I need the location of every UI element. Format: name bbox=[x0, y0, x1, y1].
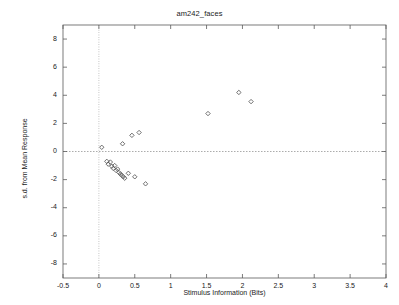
figure-container: am242_faces s.d. from Mean Response Stim… bbox=[0, 0, 399, 305]
x-tick-label: 0.5 bbox=[115, 282, 155, 289]
data-point bbox=[133, 175, 137, 179]
data-point bbox=[206, 111, 210, 115]
y-tick-label: 4 bbox=[27, 91, 57, 98]
data-point bbox=[137, 130, 141, 134]
y-tick-label: 2 bbox=[27, 119, 57, 126]
y-tick-label: 6 bbox=[27, 63, 57, 70]
data-point bbox=[143, 182, 147, 186]
scatter-plot bbox=[0, 0, 399, 305]
data-point bbox=[237, 90, 241, 94]
y-tick-label: -6 bbox=[27, 231, 57, 238]
x-tick-label: -0.5 bbox=[43, 282, 83, 289]
data-point bbox=[130, 133, 134, 137]
x-tick-label: 3.5 bbox=[330, 282, 370, 289]
y-tick-label: -4 bbox=[27, 203, 57, 210]
x-tick-label: 0 bbox=[79, 282, 119, 289]
x-tick-label: 2 bbox=[222, 282, 262, 289]
reference-lines bbox=[63, 25, 386, 278]
x-tick-label: 1.5 bbox=[187, 282, 227, 289]
data-point bbox=[126, 171, 130, 175]
x-tick-label: 2.5 bbox=[258, 282, 298, 289]
y-tick-label: -8 bbox=[27, 259, 57, 266]
data-point-group bbox=[100, 90, 254, 186]
x-tick-label: 1 bbox=[151, 282, 191, 289]
y-tick-label: 0 bbox=[27, 147, 57, 154]
x-tick-label: 3 bbox=[294, 282, 334, 289]
y-tick-label: -2 bbox=[27, 175, 57, 182]
y-tick-label: 8 bbox=[27, 35, 57, 42]
data-point bbox=[120, 142, 124, 146]
x-tick-label: 4 bbox=[366, 282, 399, 289]
data-point bbox=[249, 99, 253, 103]
data-point bbox=[100, 145, 104, 149]
